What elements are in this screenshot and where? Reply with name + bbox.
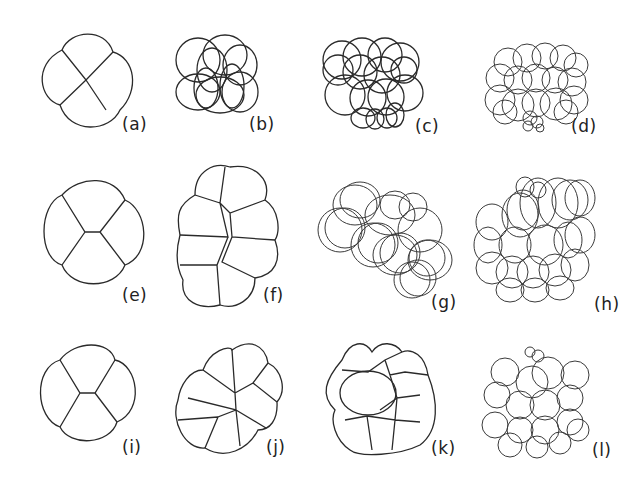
- panel-b-drawing: [176, 35, 258, 113]
- panel-k-drawing: [326, 344, 435, 455]
- panel-label-i: (i): [122, 437, 142, 457]
- panel-e-drawing: [44, 181, 144, 284]
- panel-label-g: (g): [431, 292, 457, 312]
- panel-label-c: (c): [415, 116, 439, 136]
- panel-c-drawing: [323, 38, 423, 129]
- panel-label-b: (b): [249, 114, 275, 134]
- panel-label-d: (d): [571, 116, 597, 136]
- figure: (a) (b) (c) (d) (e) (f) (g) (h) (i) (j) …: [0, 0, 636, 478]
- panel-label-f: (f): [263, 285, 284, 305]
- panel-l-drawing: [482, 347, 589, 458]
- panel-label-h: (h): [594, 294, 620, 314]
- panel-label-l: (l): [592, 440, 612, 460]
- panel-label-a: (a): [122, 114, 147, 134]
- panel-h-drawing: [474, 177, 595, 302]
- panel-g-drawing: [318, 182, 452, 298]
- cell-drawings: [0, 0, 636, 478]
- panel-label-e: (e): [122, 285, 147, 305]
- panel-label-k: (k): [431, 438, 456, 458]
- panel-a-drawing: [42, 34, 132, 127]
- panel-label-j: (j): [266, 437, 286, 457]
- panel-i-drawing: [40, 345, 135, 441]
